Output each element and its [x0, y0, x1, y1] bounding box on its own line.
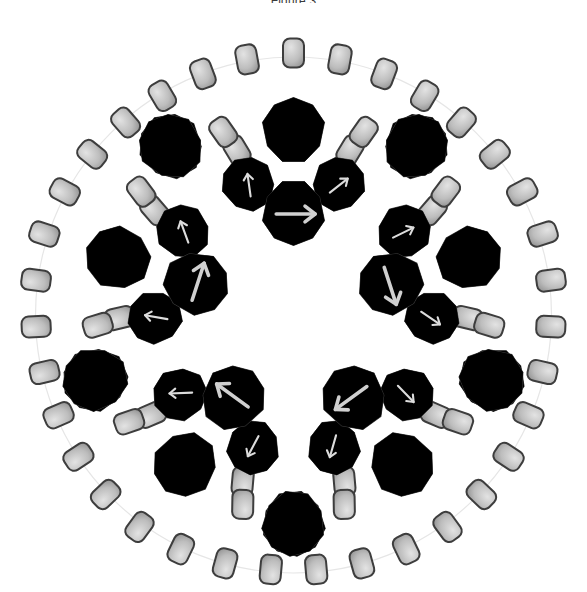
linker-outer [21, 316, 51, 338]
linker-junction [333, 490, 355, 519]
linker-outer [122, 509, 156, 545]
linker-outer [304, 554, 327, 585]
linker-outer [234, 43, 260, 75]
linker-junction [441, 407, 475, 436]
linker-outer [536, 316, 566, 338]
linker-outer [28, 359, 61, 386]
cage-medium-apex [359, 421, 447, 509]
linker-outer [526, 220, 560, 249]
linker-outer [283, 39, 304, 68]
linker-outer [20, 268, 52, 293]
linker-outer [505, 176, 540, 208]
linker-outer [188, 57, 218, 92]
figure-canvas: .cage-outline{stroke:#3f3f3f;stroke-widt… [0, 0, 587, 592]
linker-outer [146, 78, 179, 114]
linker-outer [444, 105, 479, 141]
linker-outer [165, 531, 196, 566]
linker-outer [27, 220, 61, 249]
linker-outer [41, 400, 76, 431]
linker-outer [327, 43, 353, 75]
rosette-diagram: .cage-outline{stroke:#3f3f3f;stroke-widt… [0, 0, 587, 592]
linker-outer [88, 477, 123, 512]
linker-outer [259, 554, 282, 585]
linker-outer [408, 78, 441, 114]
linker-outer [74, 137, 110, 172]
linker-outer [47, 176, 82, 208]
cage-medium-flank [259, 490, 327, 560]
linker-outer [211, 547, 239, 581]
cage-medium-apex [77, 218, 157, 297]
linker-junction [112, 407, 146, 436]
linker-outer [390, 531, 421, 566]
linker-outer [535, 268, 567, 293]
linker-outer [491, 440, 527, 473]
linker-outer [348, 547, 376, 581]
linker-junction [81, 311, 115, 340]
linker-outer [477, 137, 513, 172]
linker-junction [472, 311, 506, 340]
cage-medium-apex [430, 218, 510, 297]
linker-outer [526, 359, 559, 386]
linker-outer [511, 400, 546, 431]
linker-outer [430, 509, 464, 545]
linker-junction [232, 490, 254, 519]
linker-outer [108, 105, 143, 141]
linker-outer [464, 477, 499, 512]
linker-outer [61, 440, 97, 473]
cage-medium-apex [141, 421, 229, 509]
cage-medium-apex [263, 98, 325, 162]
linker-outer [369, 57, 399, 92]
rosette-root [20, 39, 566, 585]
